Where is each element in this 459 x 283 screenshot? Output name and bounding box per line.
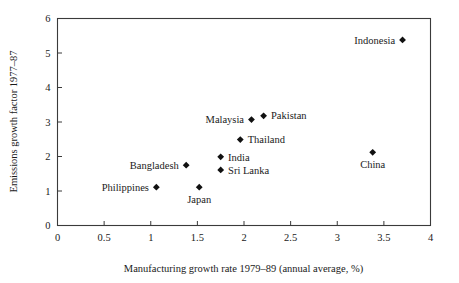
- x-axis-title: Manufacturing growth rate 1979–89 (annua…: [124, 263, 364, 275]
- scatter-chart-figure: 00.511.522.533.54 0123456 IndonesiaPakis…: [0, 0, 459, 283]
- x-tick-label: 2.5: [284, 232, 297, 243]
- y-tick-label: 6: [45, 13, 50, 24]
- y-axis-title: Emissions growth factor 1977–87: [8, 50, 19, 192]
- data-point-label: Pakistan: [271, 110, 307, 121]
- data-point-label: India: [228, 152, 250, 163]
- y-tick-label: 5: [45, 48, 50, 59]
- data-point-label: Thailand: [248, 134, 286, 145]
- x-tick-label: 1.5: [191, 232, 204, 243]
- x-tick-label: 4: [428, 232, 434, 243]
- x-tick-label: 3: [335, 232, 340, 243]
- data-point-label: China: [360, 159, 385, 170]
- y-tick-label: 2: [45, 151, 50, 162]
- data-point-label: Malaysia: [206, 114, 245, 125]
- x-tick-label: 0: [55, 232, 60, 243]
- y-tick-label: 3: [45, 117, 50, 128]
- data-point-label: Indonesia: [354, 35, 395, 46]
- y-tick-label: 0: [45, 220, 50, 231]
- data-point-label: Japan: [187, 194, 212, 205]
- data-point-label: Sri Lanka: [228, 165, 269, 176]
- x-tick-label: 3.5: [377, 232, 390, 243]
- x-tick-label: 1: [148, 232, 153, 243]
- data-point-label: Philippines: [102, 182, 149, 193]
- data-point-label: Bangladesh: [130, 160, 180, 171]
- x-tick-label: 0.5: [98, 232, 111, 243]
- y-tick-label: 1: [45, 186, 50, 197]
- x-tick-label: 2: [241, 232, 246, 243]
- y-tick-label: 4: [45, 82, 51, 93]
- chart-canvas: 00.511.522.533.54 0123456 IndonesiaPakis…: [0, 0, 459, 283]
